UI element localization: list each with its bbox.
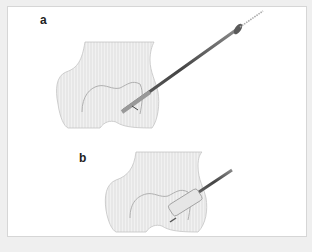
illustration: a b — [0, 0, 312, 252]
panel-label-b: b — [79, 151, 86, 165]
bone-a-icon — [57, 42, 159, 128]
panel-label-a: a — [40, 13, 47, 27]
